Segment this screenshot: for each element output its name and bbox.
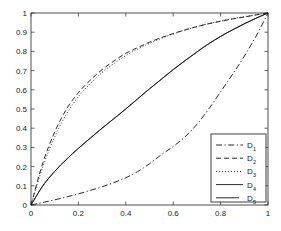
legend-subscript-4: 4 (253, 186, 256, 192)
y-tick-label: 0.1 (16, 182, 28, 191)
legend-subscript-5: 5 (253, 199, 256, 205)
legend[interactable]: D1D2D3D4D5 (211, 134, 266, 205)
x-tick-label: 1 (266, 209, 271, 218)
legend-subscript-3: 3 (253, 172, 256, 178)
x-tick-label: 0.4 (120, 209, 132, 218)
chart-figure: 00.20.40.60.81 00.10.20.30.40.50.60.70.8… (0, 0, 281, 231)
legend-box (211, 134, 266, 202)
y-tick-label: 0.9 (16, 28, 28, 37)
x-tick-label: 0 (29, 209, 34, 218)
y-tick-label: 0.5 (16, 105, 28, 114)
x-tick-label: 0.2 (73, 209, 85, 218)
legend-subscript-2: 2 (253, 159, 256, 165)
x-axis-tick-labels: 00.20.40.60.81 (29, 209, 271, 218)
y-tick-label: 0.2 (16, 163, 28, 172)
x-tick-label: 0.8 (215, 209, 227, 218)
y-tick-label: 0 (23, 201, 28, 210)
y-tick-label: 0.7 (16, 67, 28, 76)
y-tick-label: 0.6 (16, 86, 28, 95)
y-tick-label: 0.8 (16, 47, 28, 56)
y-tick-label: 0.3 (16, 143, 28, 152)
y-axis-tick-labels: 00.10.20.30.40.50.60.70.80.91 (16, 9, 28, 210)
plot-canvas: 00.20.40.60.81 00.10.20.30.40.50.60.70.8… (0, 0, 281, 231)
legend-subscript-1: 1 (253, 146, 256, 152)
y-tick-label: 1 (23, 9, 28, 18)
x-tick-label: 0.6 (168, 209, 180, 218)
y-tick-label: 0.4 (16, 124, 28, 133)
